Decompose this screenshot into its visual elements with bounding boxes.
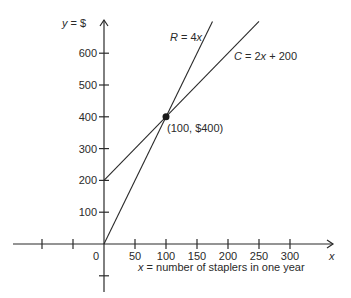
series-r-label: R = 4x: [170, 31, 203, 43]
cost-line: [104, 21, 259, 180]
y-tick-label: 600: [79, 47, 97, 59]
x-axis-name: x: [328, 250, 335, 262]
intersection-label: (100, $400): [167, 122, 223, 134]
chart-root: 50100150200250300 100200300400500600 y =…: [0, 0, 351, 298]
y-tick-label: 400: [79, 111, 97, 123]
break-even-chart: 50100150200250300 100200300400500600 y =…: [0, 0, 351, 298]
x-ticks: 50100150200250300: [42, 239, 299, 262]
series-c-label: C = 2x + 200: [234, 50, 297, 62]
origin-label: 0: [93, 250, 99, 262]
x-axis-caption: x = number of staplers in one year: [137, 261, 305, 273]
y-axis-label: y = $: [61, 17, 86, 29]
y-tick-label: 100: [79, 206, 97, 218]
intersection-point: [163, 113, 170, 120]
y-tick-label: 300: [79, 143, 97, 155]
y-tick-label: 500: [79, 79, 97, 91]
y-tick-label: 200: [79, 174, 97, 186]
